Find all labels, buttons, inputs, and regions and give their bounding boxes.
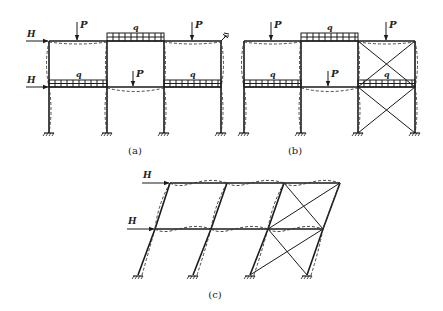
svg-text:P: P xyxy=(330,68,339,79)
q-label: q xyxy=(270,69,276,79)
caption-c: (c) xyxy=(208,289,222,300)
q-label: q xyxy=(327,22,333,32)
deflected-shape xyxy=(142,180,340,275)
horizontal-loads: H H xyxy=(127,170,169,229)
distributed-load-bottom-right: q xyxy=(358,69,415,87)
fixed-supports xyxy=(238,133,420,136)
q-label: q xyxy=(133,22,139,32)
distributed-load-top: q xyxy=(107,22,164,41)
distributed-load-bottom-left: q xyxy=(49,69,107,87)
panel-b: q q q P P P (b) xyxy=(238,19,420,156)
frame-diagram: q q q P P P H H xyxy=(0,0,443,311)
caption-b: (b) xyxy=(288,145,302,156)
q-label: q xyxy=(76,69,82,79)
panel-c: H H (c) xyxy=(127,170,340,300)
fixed-supports xyxy=(43,133,226,136)
svg-text:H: H xyxy=(127,216,137,226)
svg-text:P: P xyxy=(194,19,203,30)
svg-text:H: H xyxy=(142,170,152,180)
q-label: q xyxy=(384,69,390,79)
fixed-supports xyxy=(132,276,312,279)
svg-text:P: P xyxy=(135,68,144,79)
lateral-support-icon xyxy=(221,33,229,41)
svg-text:H: H xyxy=(26,75,36,85)
svg-text:P: P xyxy=(79,19,88,30)
distributed-load-bottom-right: q xyxy=(164,69,221,87)
distributed-load-top: q xyxy=(301,22,358,41)
beams xyxy=(155,183,340,229)
distributed-load-bottom-left: q xyxy=(244,69,301,87)
svg-text:P: P xyxy=(273,19,282,30)
point-loads: P P P xyxy=(77,19,203,86)
panel-a: q q q P P P H H xyxy=(26,19,229,156)
q-label: q xyxy=(190,69,196,79)
horizontal-loads: H H xyxy=(26,29,48,87)
point-loads: P P P xyxy=(271,19,397,86)
caption-a: (a) xyxy=(128,145,142,156)
svg-text:H: H xyxy=(26,29,36,39)
svg-text:P: P xyxy=(388,19,397,30)
